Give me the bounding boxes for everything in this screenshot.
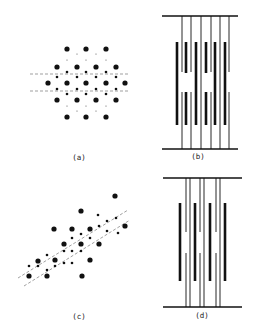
large-dot: [83, 80, 88, 85]
panel-c-dot-lattice: [18, 193, 130, 286]
tiny-dot: [76, 53, 77, 54]
large-dot: [64, 46, 69, 51]
large-dot: [103, 46, 108, 51]
large-dot: [35, 258, 40, 263]
tiny-dot: [66, 59, 67, 60]
small-dot: [117, 232, 120, 235]
small-dot: [95, 88, 98, 91]
small-dot: [71, 250, 74, 253]
panel-a-label: (a): [72, 153, 86, 162]
panel-c-label: (c): [72, 312, 86, 321]
large-dot: [79, 273, 84, 278]
small-dot: [56, 88, 59, 91]
large-dot: [64, 114, 69, 119]
large-dot: [74, 97, 79, 102]
small-dot: [85, 71, 88, 74]
large-dot: [45, 80, 50, 85]
small-dot: [46, 254, 49, 257]
large-dot: [61, 241, 66, 246]
panel-d-label: (d): [195, 311, 209, 320]
small-dot: [76, 88, 79, 91]
small-dot: [66, 93, 69, 96]
large-dot: [74, 64, 79, 69]
tiny-dot: [105, 105, 106, 106]
large-dot: [54, 64, 59, 69]
figure-canvas: (a) (b) (c) (d): [0, 0, 254, 328]
small-dot: [80, 233, 83, 236]
small-dot: [115, 88, 118, 91]
small-dot: [37, 265, 40, 268]
small-dot: [80, 250, 83, 253]
large-dot: [93, 64, 98, 69]
panel-d-bar-schematic: [163, 178, 242, 307]
small-dot: [106, 220, 109, 223]
small-dot: [54, 265, 57, 268]
large-dot: [93, 97, 98, 102]
large-dot: [51, 226, 56, 231]
large-dot: [52, 257, 57, 262]
tiny-dot: [76, 110, 77, 111]
large-dot: [122, 223, 127, 228]
large-dot: [103, 80, 108, 85]
large-dot: [83, 114, 88, 119]
large-dot: [78, 241, 83, 246]
small-dot: [115, 217, 118, 220]
small-dot: [98, 225, 101, 228]
large-dot: [122, 80, 127, 85]
small-dot: [28, 265, 31, 268]
large-dot: [26, 273, 31, 278]
tiny-dot: [85, 59, 86, 60]
large-dot: [112, 193, 117, 198]
tiny-dot: [105, 59, 106, 60]
large-dot: [96, 241, 101, 246]
panel-b-label: (b): [191, 152, 205, 161]
tiny-dot: [95, 110, 96, 111]
small-dot: [71, 262, 74, 265]
small-dot: [105, 93, 108, 96]
large-dot: [64, 80, 69, 85]
small-dot: [115, 76, 118, 79]
small-dot: [85, 93, 88, 96]
small-dot: [76, 76, 79, 79]
dashed-line: [18, 210, 128, 278]
small-dot: [63, 250, 66, 253]
small-dot: [71, 237, 74, 240]
large-dot: [83, 46, 88, 51]
tiny-dot: [85, 105, 86, 106]
panel-a-dot-lattice: [30, 46, 128, 119]
large-dot: [54, 97, 59, 102]
tiny-dot: [66, 105, 67, 106]
small-dot: [106, 230, 109, 233]
large-dot: [78, 208, 83, 213]
large-dot: [113, 97, 118, 102]
small-dot: [89, 237, 92, 240]
tiny-dot: [95, 53, 96, 54]
large-dot: [87, 257, 92, 262]
large-dot: [113, 64, 118, 69]
dashed-line: [24, 220, 130, 286]
small-dot: [46, 269, 49, 272]
large-dot: [103, 114, 108, 119]
small-dot: [97, 214, 100, 217]
large-dot: [44, 273, 49, 278]
panel-b-bar-schematic: [162, 16, 238, 149]
small-dot: [105, 71, 108, 74]
large-dot: [87, 226, 92, 231]
small-dot: [66, 71, 69, 74]
diagram-svg: (a) (b) (c) (d): [0, 0, 254, 328]
small-dot: [63, 262, 66, 265]
large-dot: [69, 226, 74, 231]
small-dot: [95, 76, 98, 79]
small-dot: [56, 76, 59, 79]
